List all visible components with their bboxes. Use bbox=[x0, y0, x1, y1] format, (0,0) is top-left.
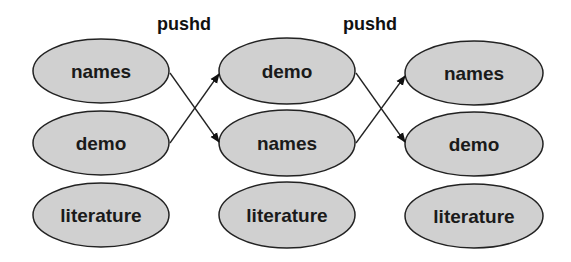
stack-column-3: names demo literature bbox=[405, 41, 543, 248]
stack-column-1: names demo literature bbox=[33, 39, 169, 247]
node-label: names bbox=[71, 61, 131, 82]
directory-stack-diagram: pushd pushd names demo literature demo n… bbox=[0, 0, 571, 262]
pushd-label-2: pushd bbox=[343, 14, 397, 34]
node-label: literature bbox=[60, 205, 141, 226]
node-label: names bbox=[257, 133, 317, 154]
node-label: demo bbox=[449, 134, 500, 155]
arrow-icon bbox=[356, 73, 405, 142]
node-label: literature bbox=[433, 206, 514, 227]
stack-column-2: demo names literature bbox=[219, 38, 355, 248]
pushd-label-1: pushd bbox=[157, 14, 211, 34]
node-label: demo bbox=[262, 61, 313, 82]
arrow-icon bbox=[356, 76, 405, 143]
node-label: demo bbox=[76, 133, 127, 154]
node-label: literature bbox=[246, 205, 327, 226]
node-label: names bbox=[444, 63, 504, 84]
